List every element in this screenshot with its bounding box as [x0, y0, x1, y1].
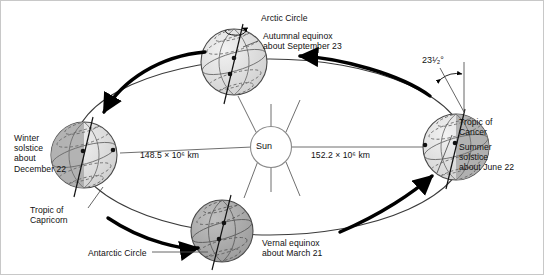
- orbit-arrow-top-left: [104, 52, 205, 112]
- globe-autumnal-equinox: [200, 24, 268, 104]
- label-autumnal-equinox: Autumnal equinox about September 23: [263, 31, 342, 51]
- label-axial-tilt-angle: 23¹⁄₂°: [422, 55, 444, 65]
- globe-vernal-equinox: [190, 195, 254, 270]
- label-antarctic-circle: Antarctic Circle: [88, 248, 147, 258]
- label-tropic-of-capricorn: Tropic of Capricorn: [30, 205, 68, 225]
- label-distance-left: 148.5 × 10⁶ km: [140, 150, 199, 160]
- label-winter-solstice: Winter solstice about December 22: [14, 133, 66, 174]
- label-vernal-equinox: Vernal equinox about March 21: [262, 238, 322, 258]
- label-tropic-of-cancer: Tropic of Cancer: [459, 117, 493, 137]
- label-arctic-circle: Arctic Circle: [261, 13, 308, 23]
- orbit-arrow-bottom-left: [108, 218, 198, 248]
- leader-capricorn: [88, 187, 103, 208]
- label-sun: Sun: [256, 141, 272, 151]
- label-summer-solstice: Summer solstice about June 22: [459, 142, 514, 173]
- label-distance-right: 152.2 × 10⁶ km: [311, 150, 370, 160]
